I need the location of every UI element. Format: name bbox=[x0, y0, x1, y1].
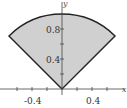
x-tick-label-neg04: -0.4 bbox=[24, 96, 42, 106]
sector-plot: -0.4 0.4 0.4 0.8 y x bbox=[0, 0, 127, 108]
x-tick-label-04: 0.4 bbox=[86, 96, 101, 106]
y-tick-label-08: 0.8 bbox=[46, 25, 61, 35]
y-axis-label: y bbox=[62, 0, 68, 8]
y-tick-label-04: 0.4 bbox=[46, 55, 61, 65]
x-axis-label: x bbox=[122, 85, 127, 94]
